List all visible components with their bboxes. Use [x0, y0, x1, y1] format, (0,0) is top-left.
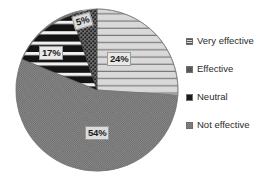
legend-item-neutral[interactable]: Neutral	[186, 92, 274, 102]
legend-item-very-effective[interactable]: Very effective	[186, 36, 274, 46]
chart-legend: Very effective Effective Neutral Not eff…	[186, 36, 274, 148]
legend-label-very-effective: Very effective	[197, 36, 254, 46]
legend-swatch-effective-icon	[186, 66, 193, 73]
legend-swatch-very-effective-icon	[186, 38, 193, 45]
legend-item-effective[interactable]: Effective	[186, 64, 274, 74]
data-label-neutral: 17%	[39, 46, 63, 60]
legend-item-not-effective[interactable]: Not effective	[186, 120, 274, 130]
legend-label-neutral: Neutral	[197, 92, 228, 102]
legend-swatch-not-effective-icon	[186, 122, 193, 129]
data-label-very-effective: 24%	[107, 52, 131, 66]
legend-label-effective: Effective	[197, 64, 233, 74]
pie-chart: 24% 54% 17% 5% Very effective Effective …	[0, 0, 274, 180]
data-label-not-effective: 54%	[85, 126, 109, 140]
legend-label-not-effective: Not effective	[197, 120, 250, 130]
legend-swatch-neutral-icon	[186, 94, 193, 101]
